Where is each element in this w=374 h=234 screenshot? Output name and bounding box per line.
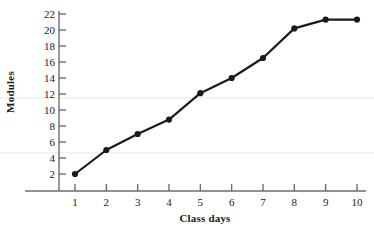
data-point-marker (72, 171, 78, 177)
y-tick-label: 2 (50, 168, 56, 180)
y-tick-label: 8 (50, 120, 56, 132)
x-tick-label: 8 (292, 196, 298, 208)
data-point-marker (354, 17, 360, 23)
y-axis-title: Modules (4, 62, 16, 122)
data-point-marker (135, 131, 141, 137)
x-tick-label: 3 (135, 196, 141, 208)
y-tick-label: 18 (44, 40, 56, 52)
x-tick-label: 5 (198, 196, 204, 208)
data-point-marker (229, 75, 235, 81)
x-tick-label: 7 (260, 196, 266, 208)
y-tick-label: 16 (44, 56, 56, 68)
y-tick-label: 14 (44, 72, 56, 84)
x-tick-label: 2 (104, 196, 110, 208)
y-tick-label: 10 (44, 104, 56, 116)
data-point-marker (103, 147, 109, 153)
y-tick-label: 20 (44, 24, 56, 36)
chart-background (0, 0, 374, 234)
data-point-marker (260, 55, 266, 61)
x-tick-label: 4 (166, 196, 172, 208)
x-tick-label: 1 (72, 196, 78, 208)
x-axis-title: Class days (150, 212, 260, 224)
x-tick-label: 6 (229, 196, 235, 208)
data-point-marker (323, 17, 329, 23)
line-chart-canvas: 246810121416182022 12345678910 (0, 0, 374, 234)
data-point-marker (291, 25, 297, 31)
x-tick-label: 9 (323, 196, 329, 208)
y-tick-label: 6 (50, 136, 56, 148)
y-tick-label: 4 (50, 152, 56, 164)
data-point-marker (166, 117, 172, 123)
y-tick-label: 12 (44, 88, 55, 100)
chart-figure: 246810121416182022 12345678910 Modules C… (0, 0, 374, 234)
x-tick-label: 10 (352, 196, 364, 208)
data-point-marker (197, 90, 203, 96)
y-tick-label: 22 (44, 8, 55, 20)
